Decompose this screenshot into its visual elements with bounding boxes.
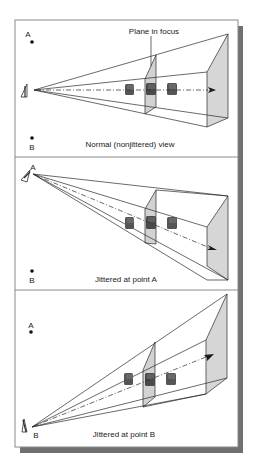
point-a-label: A	[28, 321, 34, 330]
cube-icon	[125, 217, 134, 229]
point-icon	[30, 269, 34, 273]
cube-icon	[125, 84, 134, 95]
cube-icon	[167, 217, 177, 229]
point-b-label: B	[33, 431, 38, 440]
cube-icon	[167, 83, 177, 95]
panel-caption: Jittered at point A	[95, 275, 157, 284]
panel-caption: Normal (nonjittered) view	[86, 140, 175, 149]
panel-caption: Jittered at point B	[93, 430, 155, 439]
cube-icon	[124, 373, 133, 385]
point-b-label: B	[29, 276, 34, 285]
point-icon	[30, 136, 34, 140]
point-a-label: A	[25, 30, 31, 39]
point-a-label: A	[30, 163, 36, 172]
point-icon	[30, 40, 34, 44]
cube-icon	[146, 216, 156, 229]
cube-icon	[146, 83, 156, 95]
point-b-label: B	[29, 143, 34, 152]
point-icon	[29, 330, 33, 334]
depth-of-field-jitter-diagram: A B Plane in focus Normal (nonjittered) …	[0, 0, 255, 464]
plane-in-focus-callout: Plane in focus	[129, 27, 179, 36]
cube-icon	[166, 373, 176, 385]
